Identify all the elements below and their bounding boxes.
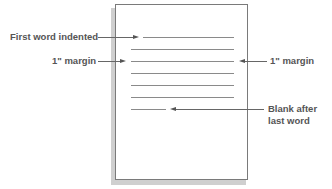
- label-right-margin: 1" margin: [270, 55, 314, 67]
- paragraph-format-diagram: First word indented 1" margin 1" margin …: [0, 0, 332, 189]
- text-line: [131, 61, 234, 62]
- arrow-first-word-indented: [98, 37, 133, 38]
- label-blank-after: Blank after: [268, 103, 317, 115]
- text-line: [131, 49, 234, 50]
- label-last-word: last word: [268, 115, 310, 127]
- text-line-last-short: [131, 109, 166, 110]
- arrow-left-margin: [98, 61, 120, 62]
- arrow-blank-after-last-word: [176, 109, 264, 110]
- text-line: [131, 73, 234, 74]
- label-left-margin: 1" margin: [52, 55, 96, 67]
- arrow-head-right-icon: [120, 59, 126, 63]
- arrow-head-right-icon: [133, 35, 139, 39]
- text-line-first-indented: [143, 37, 234, 38]
- page: [115, 4, 248, 180]
- text-line: [131, 97, 234, 98]
- text-line: [131, 85, 234, 86]
- label-first-word-indented: First word indented: [10, 31, 98, 43]
- arrow-right-margin: [245, 61, 267, 62]
